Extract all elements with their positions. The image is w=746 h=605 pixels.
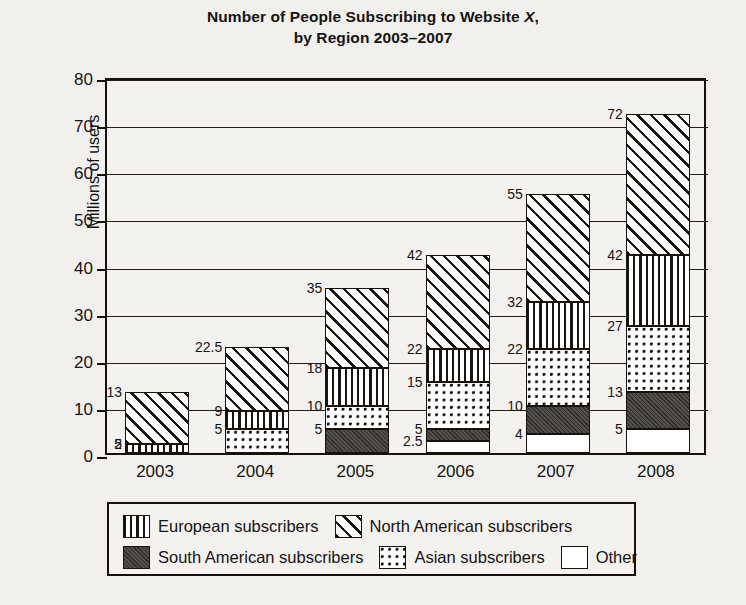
value-label-2003-13: 13 — [107, 385, 123, 399]
bar-segment-2003-north-american-subscribers[interactable] — [125, 392, 189, 444]
bar-segment-2006-european-subscribers[interactable] — [426, 349, 490, 382]
value-label-2008-27: 27 — [607, 319, 623, 333]
y-tick-60 — [97, 174, 107, 176]
value-label-2006-42: 42 — [407, 248, 423, 262]
bar-2006[interactable]: 2.55152242 — [426, 76, 490, 453]
y-tick-label-10: 10 — [74, 401, 93, 418]
value-label-2005-35: 35 — [307, 281, 323, 295]
legend-swatch-diagonal-hatch-icon — [335, 515, 362, 538]
bar-2004[interactable]: 5922.5 — [225, 76, 289, 453]
value-label-2004-9: 9 — [214, 404, 222, 418]
bar-segment-2007-other[interactable] — [526, 434, 590, 453]
bar-segment-2008-south-american-subscribers[interactable] — [626, 392, 690, 430]
x-tick-label-2008: 2008 — [606, 462, 706, 482]
plot-area: Millions of users 01020304050607080 2135… — [105, 78, 706, 455]
legend-label: Asian subscribers — [414, 548, 544, 567]
bar-segment-2006-north-american-subscribers[interactable] — [426, 255, 490, 349]
gridline-70 — [107, 127, 708, 128]
value-label-2005-5: 5 — [315, 422, 323, 436]
y-tick-40 — [97, 269, 107, 271]
bar-segment-2003-european-subscribers[interactable] — [125, 444, 189, 453]
x-tick-label-2004: 2004 — [205, 462, 305, 482]
value-label-2008-42: 42 — [607, 248, 623, 262]
value-label-2004-22.5: 22.5 — [195, 340, 222, 354]
gridline-60 — [107, 174, 708, 175]
bar-2003[interactable]: 2135 — [125, 76, 189, 453]
legend: European subscribersNorth American subsc… — [107, 502, 636, 576]
legend-item-south-american-subscribers[interactable]: South American subscribers — [123, 546, 363, 569]
legend-item-european-subscribers[interactable]: European subscribers — [123, 515, 319, 538]
bar-segment-2006-other[interactable] — [426, 441, 490, 453]
legend-item-north-american-subscribers[interactable]: North American subscribers — [335, 515, 573, 538]
value-label-2006-22: 22 — [407, 342, 423, 356]
gridline-10 — [107, 410, 708, 411]
legend-row-2: South American subscribersAsian subscrib… — [123, 542, 624, 573]
legend-label: European subscribers — [158, 517, 319, 536]
bar-segment-2004-european-subscribers[interactable] — [225, 411, 289, 430]
y-tick-label-50: 50 — [74, 212, 93, 229]
x-tick-label-2003: 2003 — [105, 462, 205, 482]
legend-item-other[interactable]: Other — [561, 546, 637, 569]
y-tick-label-70: 70 — [74, 118, 93, 135]
bar-segment-2004-asian-subscribers[interactable] — [225, 429, 289, 453]
value-label-2003-extra-0: 5 — [114, 437, 122, 451]
bar-segment-2007-asian-subscribers[interactable] — [526, 349, 590, 406]
gridline-40 — [107, 269, 708, 270]
value-label-2008-13: 13 — [607, 385, 623, 399]
value-label-2007-10: 10 — [507, 399, 523, 413]
bar-segment-2005-south-american-subscribers[interactable] — [325, 429, 389, 453]
value-label-2008-5: 5 — [615, 422, 623, 436]
value-label-2005-10: 10 — [307, 399, 323, 413]
y-tick-50 — [97, 221, 107, 223]
value-label-2008-72: 72 — [607, 107, 623, 121]
value-label-2006-5: 5 — [415, 422, 423, 436]
gridline-80 — [107, 80, 708, 81]
bar-2007[interactable]: 410223255 — [526, 76, 590, 453]
x-tick-label-2006: 2006 — [406, 462, 506, 482]
legend-row-1: European subscribersNorth American subsc… — [123, 511, 624, 542]
legend-swatch-dotted-grid-icon — [379, 546, 406, 569]
bar-segment-2008-european-subscribers[interactable] — [626, 255, 690, 326]
bar-2008[interactable]: 513274272 — [626, 76, 690, 453]
legend-item-asian-subscribers[interactable]: Asian subscribers — [379, 546, 544, 569]
legend-swatch-solid-dark-icon — [123, 546, 150, 569]
bar-segment-2004-north-american-subscribers[interactable] — [225, 347, 289, 411]
value-label-2007-55: 55 — [507, 187, 523, 201]
value-label-2007-4: 4 — [515, 427, 523, 441]
y-tick-70 — [97, 127, 107, 129]
x-tick-label-2007: 2007 — [506, 462, 606, 482]
bar-2005[interactable]: 5101835 — [325, 76, 389, 453]
value-label-2006-15: 15 — [407, 375, 423, 389]
legend-swatch-vertical-stripes-icon — [123, 515, 150, 538]
bar-segment-2008-asian-subscribers[interactable] — [626, 326, 690, 392]
bar-segment-2008-north-american-subscribers[interactable] — [626, 114, 690, 255]
y-tick-10 — [97, 410, 107, 412]
bar-segment-2007-european-subscribers[interactable] — [526, 302, 590, 349]
bar-segment-2005-european-subscribers[interactable] — [325, 368, 389, 406]
y-tick-label-20: 20 — [74, 354, 93, 371]
legend-label: North American subscribers — [370, 517, 573, 536]
y-tick-80 — [97, 80, 107, 82]
y-tick-0 — [97, 457, 107, 459]
bar-segment-2008-other[interactable] — [626, 429, 690, 453]
gridline-20 — [107, 363, 708, 364]
gridline-50 — [107, 221, 708, 222]
legend-swatch-white-icon — [561, 546, 588, 569]
value-label-2007-32: 32 — [507, 295, 523, 309]
value-label-2004-5: 5 — [214, 422, 222, 436]
legend-label: Other — [596, 548, 637, 567]
y-tick-label-60: 60 — [74, 165, 93, 182]
bar-segment-2005-north-american-subscribers[interactable] — [325, 288, 389, 368]
bar-segment-2006-asian-subscribers[interactable] — [426, 382, 490, 429]
y-tick-label-0: 0 — [84, 448, 93, 465]
y-tick-20 — [97, 363, 107, 365]
legend-label: South American subscribers — [158, 548, 363, 567]
value-label-2005-18: 18 — [307, 361, 323, 375]
bar-segment-2007-north-american-subscribers[interactable] — [526, 194, 590, 302]
bar-segment-2005-asian-subscribers[interactable] — [325, 406, 389, 430]
value-label-2007-22: 22 — [507, 342, 523, 356]
bar-segment-2007-south-american-subscribers[interactable] — [526, 406, 590, 434]
y-tick-label-40: 40 — [74, 260, 93, 277]
y-tick-30 — [97, 316, 107, 318]
bar-segment-2006-south-american-subscribers[interactable] — [426, 429, 490, 441]
